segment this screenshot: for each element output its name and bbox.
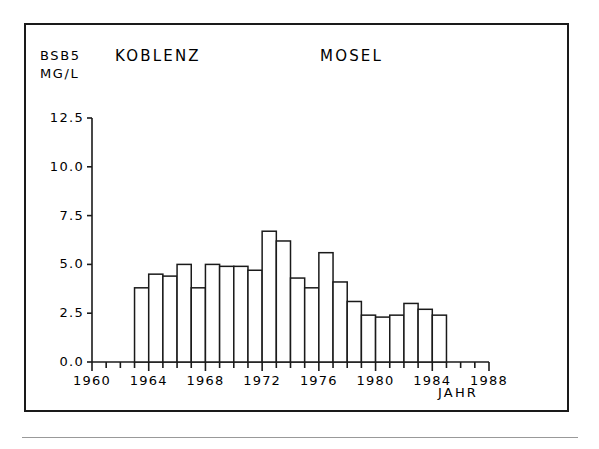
bar [361,315,375,362]
x-tick-label: 1980 [353,373,399,388]
bar [220,266,234,362]
bar [276,241,290,362]
y-tick-label: 12.5 [30,110,84,125]
x-tick-label: 1960 [69,373,115,388]
y-tick-label: 2.5 [30,305,84,320]
bar [432,315,446,362]
x-tick-label: 1984 [409,373,455,388]
bar [418,309,432,362]
bar [333,282,347,362]
bar [248,270,262,362]
bar [163,276,177,362]
bar [149,274,163,362]
bar [234,266,248,362]
footer-divider [22,437,578,438]
y-tick-label: 10.0 [30,159,84,174]
y-tick-label: 0.0 [30,354,84,369]
x-tick-label: 1976 [296,373,342,388]
bar [347,301,361,362]
y-tick-label: 7.5 [30,208,84,223]
bar [404,303,418,362]
bar [205,264,219,362]
bar [262,231,276,362]
x-tick-label: 1968 [182,373,228,388]
bar [319,253,333,362]
bar [291,278,305,362]
chart-figure: BSB5 MG/L KOBLENZ MOSEL JAHR 0.02.55.07.… [0,0,599,449]
bar [135,288,149,362]
bar [177,264,191,362]
bar [305,288,319,362]
bar [376,317,390,362]
x-tick-label: 1964 [126,373,172,388]
bar [390,315,404,362]
x-tick-label: 1988 [466,373,512,388]
x-tick-label: 1972 [239,373,285,388]
y-tick-label: 5.0 [30,256,84,271]
bar [191,288,205,362]
bar-series [135,231,447,362]
